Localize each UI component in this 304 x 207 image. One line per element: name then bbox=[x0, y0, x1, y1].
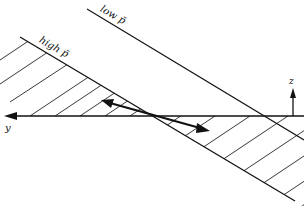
hatch-region-lower bbox=[160, 66, 304, 207]
y-axis-label: y bbox=[5, 122, 11, 133]
low-density-line bbox=[87, 9, 304, 140]
y-axis-arrowhead-icon bbox=[4, 112, 17, 120]
double-arrow-head-left-icon bbox=[101, 99, 114, 108]
hatch-region-upper bbox=[0, 20, 250, 116]
z-axis-arrowhead-icon bbox=[290, 88, 296, 98]
z-axis-label: z bbox=[289, 76, 294, 86]
diagram: high p̄ low p̄ y z bbox=[0, 0, 304, 207]
diagram-canvas bbox=[0, 0, 304, 207]
high-density-line bbox=[20, 37, 295, 201]
